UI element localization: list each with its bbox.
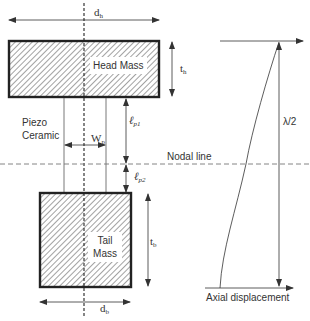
piezo-length1-label: ℓp1: [129, 115, 141, 128]
displacement-curve: [220, 42, 279, 288]
piezo-width-label: Wp: [91, 133, 105, 146]
head-mass-label: Head Mass: [90, 57, 147, 74]
tail-mass-label: TailMass: [88, 232, 122, 262]
nodal-line-label: Nodal line: [167, 152, 211, 162]
piezo-length2-label: ℓp2: [134, 171, 146, 184]
head-thickness-label: th: [180, 63, 187, 76]
tail-thickness-label: tb: [150, 236, 157, 249]
half-wavelength-label: λ/2: [283, 117, 296, 127]
transducer-diagram: [0, 0, 310, 321]
head-width-label: dh: [94, 7, 103, 20]
tail-width-label: db: [100, 303, 109, 316]
axial-displacement-label: Axial displacement: [206, 293, 289, 303]
piezo-label-line2: Ceramic: [22, 131, 59, 141]
piezo-label-line1: Piezo: [22, 118, 47, 128]
